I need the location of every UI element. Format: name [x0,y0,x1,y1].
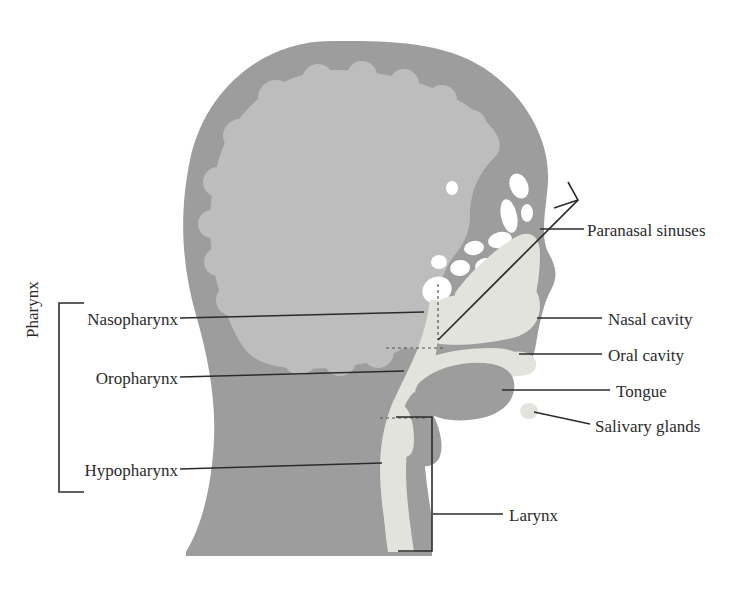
label-tongue: Tongue [616,383,667,400]
brain-gyrus [347,61,377,91]
label-oropharynx: Oropharynx [96,370,178,387]
label-nasopharynx: Nasopharynx [87,311,178,328]
brain-gyrus [362,336,394,368]
brain-gyrus [203,167,233,197]
brain-gyrus [458,110,486,138]
brain-gyrus [258,80,294,116]
brain-gyrus [198,210,226,238]
brain-gyrus [204,248,232,276]
brain-gyrus [389,69,419,99]
brain-gyrus [324,344,356,376]
label-oral-cavity: Oral cavity [608,347,684,364]
sinus-air-cell [431,255,447,269]
label-hypopharynx: Hypopharynx [85,462,178,479]
brain-gyrus [283,341,317,375]
pharynx-bracket-path [59,303,84,492]
brain-gyrus [223,119,257,153]
label-pharynx-group: Pharynx [24,281,41,338]
brain-gyrus [427,85,457,115]
leader-line-salivary-glands [534,412,590,424]
brain-gyrus [244,322,280,358]
label-larynx: Larynx [509,507,558,524]
anatomy-illustration [0,0,750,596]
brain-gyrus [302,64,334,96]
sinus-air-cell [521,204,533,222]
salivary-gland-shape [520,403,538,419]
label-salivary-glands: Salivary glands [595,418,700,435]
brain-gyrus [216,284,248,316]
label-paranasal-sinuses: Paranasal sinuses [587,222,706,239]
pharynx-group-bracket [59,303,84,492]
sinus-air-cell [446,181,458,195]
anatomy-figure: Nasopharynx Oropharynx Hypopharynx Paran… [0,0,750,596]
label-nasal-cavity: Nasal cavity [608,311,693,328]
